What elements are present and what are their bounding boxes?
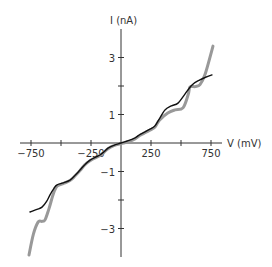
iv-curve-chart: −750−250250750 31−1−3 I (nA) V (mV): [0, 0, 272, 267]
y-tick-label: 3: [109, 53, 115, 64]
x-axis-label: V (mV): [227, 138, 262, 149]
y-tick-label: −1: [100, 167, 115, 178]
y-tick-label: −3: [100, 224, 115, 235]
x-tick-label: −750: [17, 148, 44, 159]
y-tick-label: 1: [109, 110, 115, 121]
x-tick-label: 250: [141, 148, 160, 159]
x-tick-label: 750: [201, 148, 220, 159]
y-axis-label: I (nA): [110, 15, 137, 26]
